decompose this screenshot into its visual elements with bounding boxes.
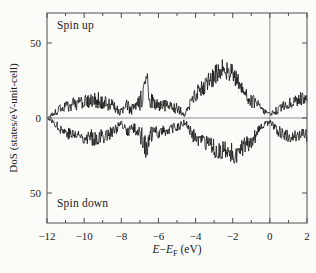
y-tick-label: 50 [30, 37, 42, 49]
x-tick-label: −4 [190, 230, 202, 242]
spin-up-annotation: Spin up [57, 19, 94, 31]
y-axis-title: DoS (states/eV-unit-cell) [7, 47, 21, 189]
spin-down-curve [48, 119, 307, 164]
x-axis-symbol-ef: E [166, 243, 173, 255]
x-axis-units: (eV) [177, 243, 201, 255]
dos-figure: −12−10−8−6−4−20250050 Spin up Spin down … [0, 0, 316, 273]
x-tick-label: −6 [153, 230, 165, 242]
y-tick-label: 0 [36, 112, 42, 124]
x-tick-label: −10 [76, 230, 94, 242]
spin-down-annotation: Spin down [57, 197, 108, 209]
x-tick-label: −2 [227, 230, 239, 242]
x-tick-label: −8 [115, 230, 127, 242]
spin-up-curve [48, 60, 307, 118]
x-tick-label: 2 [304, 230, 310, 242]
x-tick-label: 0 [267, 230, 273, 242]
y-tick-label: 50 [30, 187, 42, 199]
x-tick-label: −12 [38, 230, 55, 242]
plot-area: −12−10−8−6−4−20250050 [0, 0, 316, 273]
x-axis-title: E−EF(eV) [47, 243, 307, 258]
